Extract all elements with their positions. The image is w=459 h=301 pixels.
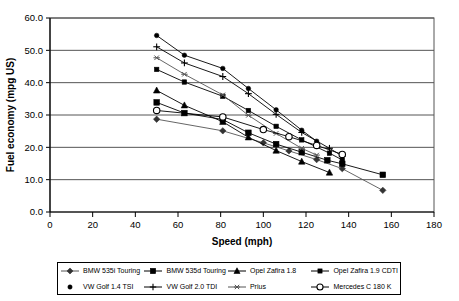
- diamond-marker-icon: [60, 266, 80, 276]
- data-point-marker: [219, 73, 226, 80]
- y-tick-label: 50.0: [25, 45, 44, 56]
- chart-legend: BMW 535i TouringBMW 535d TouringOpel Zaf…: [57, 262, 401, 295]
- square-small-marker-icon: [310, 266, 330, 276]
- data-point-marker: [326, 169, 332, 175]
- legend-item[interactable]: Opel Zafira 1.8: [227, 266, 310, 276]
- data-point-marker: [68, 285, 72, 289]
- gridlines: 0.010.020.030.040.050.060.0: [25, 12, 435, 217]
- data-point-marker: [245, 113, 251, 118]
- legend-item[interactable]: BMW 535i Touring: [60, 266, 143, 276]
- y-axis-title: Fuel economy (mpg US): [5, 58, 16, 172]
- data-point-marker: [181, 102, 187, 108]
- y-tick-label: 10.0: [25, 174, 44, 185]
- x-tick-label: 120: [298, 219, 314, 230]
- data-point-marker: [182, 80, 186, 84]
- data-point-marker: [325, 157, 331, 163]
- data-point-marker: [234, 285, 240, 289]
- x-tick-label: 100: [255, 219, 271, 230]
- legend-item-label: BMW 535d Touring: [166, 267, 225, 275]
- data-point-marker: [286, 133, 292, 139]
- data-point-marker: [153, 107, 159, 113]
- series-line: [157, 35, 317, 141]
- dot-marker-icon: [60, 282, 80, 292]
- x-axis-title: Speed (mph): [212, 236, 273, 247]
- x-tick-label: 80: [215, 219, 226, 230]
- legend-grid: BMW 535i TouringBMW 535d TouringOpel Zaf…: [58, 263, 400, 294]
- data-point-marker: [260, 126, 266, 132]
- data-point-marker: [380, 172, 386, 178]
- x-tick-label: 140: [341, 219, 357, 230]
- legend-item-label: Prius: [250, 283, 266, 291]
- data-point-marker: [220, 114, 226, 120]
- series-1: [154, 100, 386, 178]
- data-point-marker: [150, 284, 156, 290]
- data-point-marker: [221, 66, 226, 71]
- square-marker-icon: [143, 266, 163, 276]
- triangle-marker-icon: [227, 266, 247, 276]
- data-point-marker: [220, 128, 226, 134]
- data-point-marker: [274, 124, 278, 128]
- plot-area: 0.010.020.030.040.050.060.00204060801001…: [0, 0, 459, 252]
- legend-item[interactable]: Prius: [227, 282, 310, 292]
- data-point-marker: [299, 158, 305, 164]
- y-tick-label: 40.0: [25, 77, 44, 88]
- legend-item[interactable]: VW Golf 1.4 TSI: [60, 282, 143, 292]
- data-point-marker: [318, 269, 322, 273]
- data-point-marker: [273, 141, 279, 147]
- x-tick-label: 180: [426, 219, 442, 230]
- data-point-marker: [154, 100, 160, 106]
- series-6: [153, 55, 319, 157]
- data-point-marker: [154, 33, 159, 38]
- circle-open-marker-icon: [310, 282, 330, 292]
- data-point-marker: [153, 116, 159, 122]
- data-point-marker: [181, 60, 188, 67]
- data-point-marker: [67, 268, 73, 274]
- x-tick-label: 0: [47, 219, 52, 230]
- data-point-marker: [153, 43, 160, 50]
- fuel-economy-chart: 0.010.020.030.040.050.060.00204060801001…: [0, 0, 459, 301]
- series-line: [157, 102, 383, 174]
- legend-item-label: Opel Zafira 1.8: [250, 267, 296, 275]
- data-point-marker: [317, 284, 323, 290]
- plus-marker-icon: [143, 282, 163, 292]
- legend-item-label: Mercedes C 180 K: [333, 283, 391, 291]
- data-point-marker: [154, 67, 158, 71]
- data-point-marker: [339, 151, 345, 157]
- series-line: [157, 58, 317, 155]
- y-tick-label: 60.0: [25, 12, 44, 23]
- x-tick-label: 20: [87, 219, 98, 230]
- series-2: [153, 87, 332, 175]
- legend-item[interactable]: VW Golf 2.0 TDI: [143, 282, 226, 292]
- data-point-marker: [246, 108, 250, 112]
- legend-item-label: Opel Zafira 1.9 CDTI: [333, 267, 398, 275]
- y-tick-label: 20.0: [25, 142, 44, 153]
- y-tick-label: 30.0: [25, 109, 44, 120]
- data-point-marker: [246, 86, 251, 91]
- data-point-marker: [380, 187, 386, 193]
- legend-item[interactable]: Mercedes C 180 K: [310, 282, 398, 292]
- star-marker-icon: [227, 282, 247, 292]
- y-tick-label: 0.0: [30, 206, 43, 217]
- data-point-marker: [151, 268, 156, 273]
- legend-item-label: BMW 535i Touring: [83, 267, 140, 275]
- data-point-marker: [153, 55, 159, 60]
- data-point-marker: [273, 147, 279, 153]
- series-0: [153, 116, 386, 194]
- data-point-marker: [245, 90, 252, 97]
- x-tick-label: 60: [173, 219, 184, 230]
- data-point-marker: [313, 142, 319, 148]
- chart-canvas: 0.010.020.030.040.050.060.00204060801001…: [0, 0, 459, 252]
- x-tick-label: 160: [383, 219, 399, 230]
- legend-item[interactable]: Opel Zafira 1.9 CDTI: [310, 266, 398, 276]
- data-point-marker: [182, 53, 187, 58]
- data-point-marker: [181, 72, 187, 77]
- data-point-marker: [153, 87, 159, 93]
- x-tick-label: 40: [130, 219, 141, 230]
- legend-item-label: VW Golf 2.0 TDI: [166, 283, 217, 291]
- legend-item-label: VW Golf 1.4 TSI: [83, 283, 133, 291]
- legend-item[interactable]: BMW 535d Touring: [143, 266, 226, 276]
